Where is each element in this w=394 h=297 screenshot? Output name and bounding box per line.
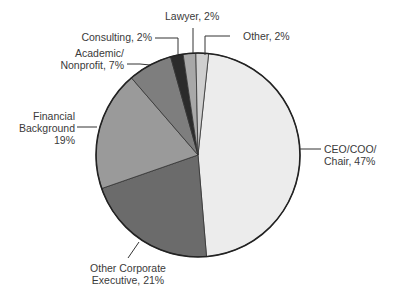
label-academic-line2: Nonprofit, 7% (40, 59, 124, 71)
label-consulting: Consulting, 2% (68, 31, 152, 43)
label-ceo: CEO/COO/ Chair, 47% (324, 143, 377, 167)
label-academic: Academic/ Nonprofit, 7% (40, 47, 124, 71)
pie-slices (96, 53, 300, 257)
label-financial-line2: Background (0, 122, 75, 134)
label-ceo-line2: Chair, 47% (324, 155, 377, 167)
label-other-corporate: Other Corporate Executive, 21% (78, 262, 178, 286)
pie-slice-ceo-coo-chair (198, 54, 300, 257)
label-ceo-line1: CEO/COO/ (324, 143, 377, 155)
label-other-corporate-line1: Other Corporate (78, 262, 178, 274)
label-lawyer: Lawyer, 2% (165, 10, 219, 22)
label-financial: Financial Background 19% (0, 110, 75, 146)
label-academic-line1: Academic/ (40, 47, 124, 59)
label-financial-line3: 19% (0, 134, 75, 146)
label-other-corporate-line2: Executive, 21% (78, 274, 178, 286)
label-other: Other, 2% (243, 30, 290, 42)
label-financial-line1: Financial (0, 110, 75, 122)
